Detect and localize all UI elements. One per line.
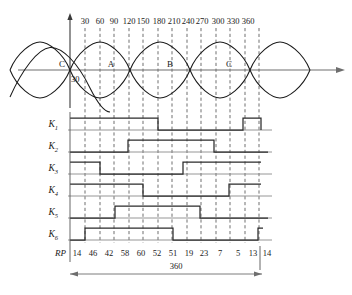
origin-offset-label: 30 [71, 74, 80, 84]
y-axis-arrow-icon [67, 13, 72, 20]
tick-label: 300 [212, 16, 225, 26]
signal-label-k2: K2 [47, 141, 58, 153]
rp-value: 58 [121, 248, 130, 258]
signal-label-k5: K5 [47, 207, 58, 219]
diagram-root: 30 60 90 120 150 180 210 240 270 300 330… [0, 0, 352, 295]
rp-value: 7 [218, 248, 222, 258]
k6-pulse [70, 228, 263, 240]
rp-row: RP 14 46 42 58 60 52 51 19 23 7 5 13 14 [54, 246, 272, 270]
tick-label: 120 [123, 16, 136, 26]
phase-label-b: B [167, 59, 173, 69]
rp-value: 60 [137, 248, 146, 258]
k3-pulse [70, 162, 261, 174]
tick-label: 210 [168, 16, 181, 26]
signal-row-k4: K4 [47, 184, 272, 197]
timing-diagram-svg: 30 60 90 120 150 180 210 240 270 300 330… [0, 0, 352, 295]
tick-label: 150 [137, 16, 150, 26]
dimension-arrow-left-icon [70, 272, 78, 277]
signal-row-k2: K2 [47, 140, 272, 153]
rp-value: 52 [153, 248, 162, 258]
rp-value: 23 [200, 248, 209, 258]
rp-label: RP [54, 248, 66, 258]
tick-label: 360 [242, 16, 255, 26]
k4-pulse [70, 184, 261, 196]
rp-value: 13 [249, 248, 258, 258]
wave-axes [18, 13, 345, 108]
x-axis-arrow-icon [336, 67, 345, 73]
signal-label-k4: K4 [47, 185, 58, 197]
signal-row-k1: K1 [47, 118, 272, 131]
rp-value: 19 [185, 248, 194, 258]
signal-label-k1: K1 [47, 119, 58, 131]
k1-pulse [70, 118, 261, 130]
tick-label: 90 [110, 16, 119, 26]
rp-value: 46 [89, 248, 98, 258]
tick-label: 60 [96, 16, 105, 26]
rp-value: 42 [105, 248, 114, 258]
axis-tick-labels: 30 60 90 120 150 180 210 240 270 300 330… [81, 16, 255, 26]
phase-c-wave [10, 47, 110, 112]
rp-value: 5 [236, 248, 240, 258]
tick-label: 240 [182, 16, 195, 26]
tick-label: 180 [153, 16, 166, 26]
phase-label-c1: C [59, 59, 65, 69]
phase-label-c2: C [226, 59, 232, 69]
overall-dimension: 360 [70, 261, 262, 276]
rp-value: 14 [73, 248, 82, 258]
tick-label: 270 [196, 16, 209, 26]
signal-row-k3: K3 [47, 162, 272, 175]
phase-label-a: A [108, 59, 115, 69]
rp-value: 14 [263, 248, 272, 258]
dimension-arrow-right-icon [254, 272, 262, 277]
rp-value: 51 [169, 248, 178, 258]
signal-row-k6: K6 [47, 228, 272, 241]
signal-label-k3: K3 [47, 163, 58, 175]
dimension-label: 360 [170, 261, 183, 271]
tick-label: 30 [81, 16, 90, 26]
tick-label: 330 [227, 16, 240, 26]
sine-waveforms [10, 42, 310, 112]
signal-label-k6: K6 [47, 229, 58, 241]
signal-row-k5: K5 [47, 206, 272, 219]
